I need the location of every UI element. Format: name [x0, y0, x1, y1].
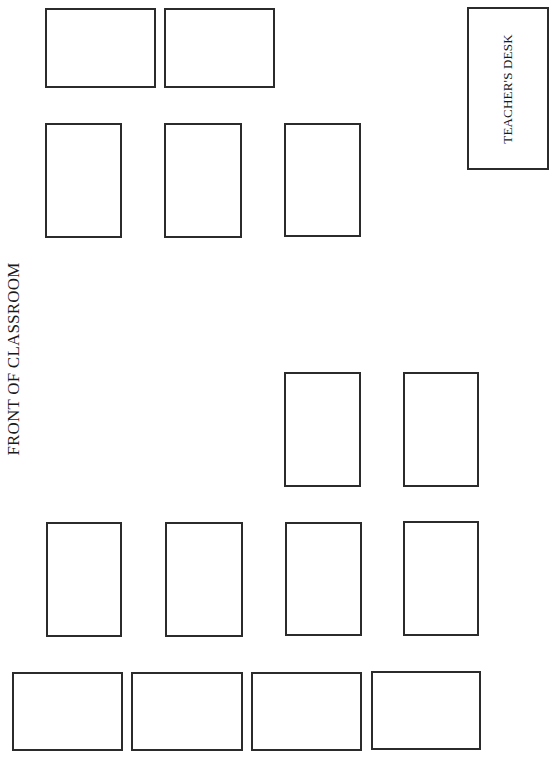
- student-desk: [45, 8, 156, 88]
- student-desk: [131, 672, 243, 751]
- student-desk: [284, 123, 361, 237]
- teacher-desk-label: TEACHER'S DESK: [500, 34, 516, 144]
- student-desk: [284, 372, 361, 487]
- front-of-classroom-label: FRONT OF CLASSROOM: [4, 262, 24, 455]
- student-desk: [164, 123, 242, 238]
- student-desk: [46, 522, 122, 637]
- student-desk: [45, 123, 122, 238]
- teacher-desk: TEACHER'S DESK: [467, 7, 549, 170]
- student-desk: [165, 522, 243, 637]
- student-desk: [403, 372, 479, 487]
- student-desk: [403, 521, 479, 636]
- student-desk: [164, 8, 275, 88]
- student-desk: [251, 672, 362, 751]
- classroom-seating-chart: FRONT OF CLASSROOM TEACHER'S DESK: [0, 0, 560, 759]
- student-desk: [12, 672, 123, 751]
- student-desk: [285, 522, 362, 636]
- student-desk: [371, 671, 481, 750]
